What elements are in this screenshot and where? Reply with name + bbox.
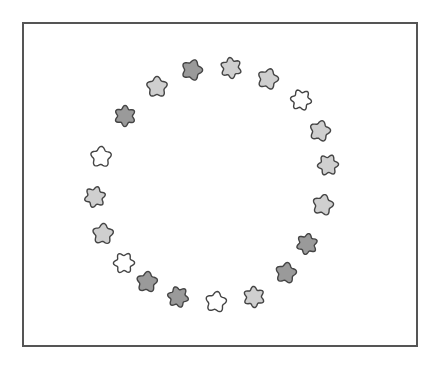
blob-shape-light bbox=[259, 69, 279, 89]
blob-shape-dark bbox=[183, 60, 203, 80]
blob-shape-light bbox=[85, 187, 106, 208]
blob-shape-white bbox=[206, 291, 226, 311]
blob-ring bbox=[0, 0, 441, 374]
blob-shape-dark bbox=[276, 263, 296, 283]
blob-shape-light bbox=[244, 286, 263, 307]
blob-shape-dark bbox=[116, 105, 135, 126]
blob-shape-dark bbox=[297, 234, 317, 255]
blob-shape-white bbox=[113, 254, 134, 273]
blob-shape-light bbox=[314, 195, 334, 215]
blob-shape-light bbox=[147, 76, 167, 96]
blob-shape-light bbox=[311, 121, 331, 141]
blob-shape-white bbox=[291, 90, 312, 110]
blob-shape-light bbox=[221, 57, 241, 78]
blob-shape-dark bbox=[137, 271, 157, 291]
blob-shape-light bbox=[317, 155, 338, 174]
blob-shape-light bbox=[93, 223, 113, 243]
blob-shape-white bbox=[91, 146, 111, 166]
blob-shape-dark bbox=[168, 287, 189, 307]
